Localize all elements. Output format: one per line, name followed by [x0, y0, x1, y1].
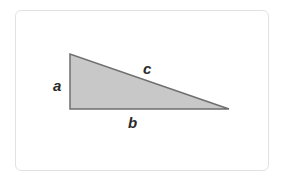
triangle-diagram: a c b [0, 0, 284, 178]
side-label-a: a [53, 77, 61, 94]
side-label-b: b [128, 114, 137, 131]
side-label-c: c [143, 60, 152, 77]
